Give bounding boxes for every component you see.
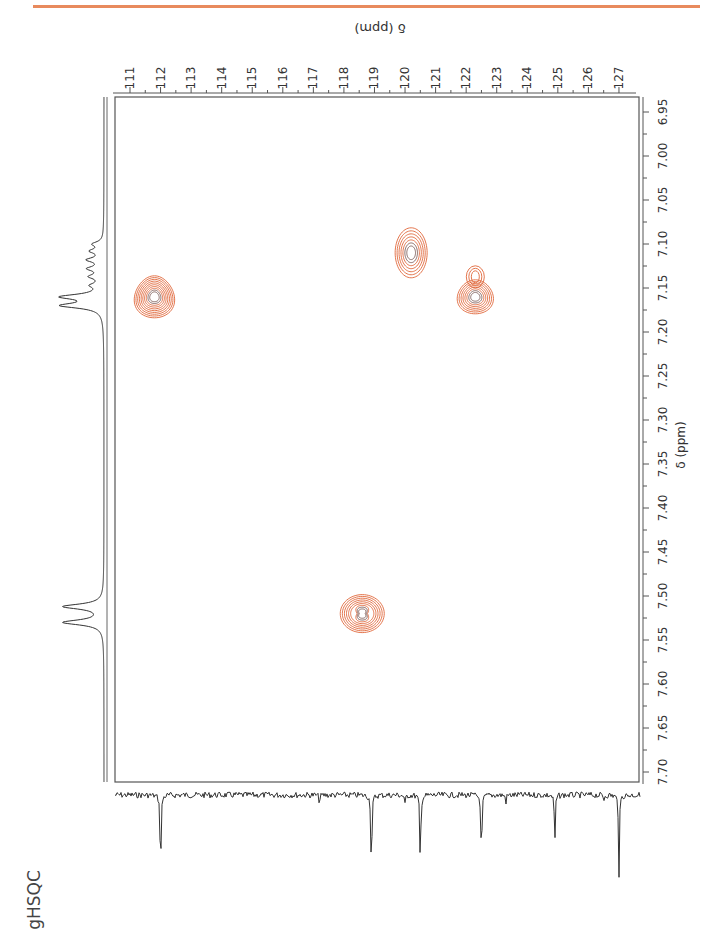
proton-tick-label: 7.15 [656,275,670,302]
proton-tick-label: 7.35 [656,451,670,478]
proton-tick-label: 7.60 [656,671,670,698]
proton-tick-label: 7.00 [656,143,670,170]
contour-line [471,292,480,301]
page: δ (ppm) 11111211311411511611711811912012… [0,0,712,950]
contour-line [459,282,491,312]
carbon-tick-label: 121 [429,67,443,90]
carbon-tick-label: 125 [551,67,565,90]
contour-line [395,228,427,278]
proton-tick-label: 7.30 [656,407,670,434]
contour-line [471,271,479,283]
carbon-tick-label: 111 [123,67,137,90]
carbon-tick-label: 120 [398,67,412,90]
contour-line [407,246,416,260]
contour-line [134,276,174,318]
proton-tick-label: 7.25 [656,363,670,390]
carbon-tick-label: 119 [367,67,381,90]
carbon-tick-label: 123 [490,67,504,90]
proton-1d-spectrum [59,97,104,782]
contour-line [359,609,366,618]
contour-line [467,289,484,305]
experiment-title: gHSQC [24,870,44,930]
contour-line [146,288,162,305]
cross-peak-contours [134,228,493,633]
contour-line [465,287,486,307]
carbon-1d-spectrum [115,792,640,877]
contour-line [145,287,165,308]
contour-line [139,281,169,312]
carbon-tick-label: 114 [215,67,229,90]
carbon-tick-label: 116 [276,67,290,90]
carbon-tick-label: 112 [154,67,168,90]
proton-tick-label: 7.50 [656,583,670,610]
contour-line [401,237,421,269]
proton-tick-label: 7.55 [656,627,670,654]
proton-axis-ticks: 6.957.007.057.107.157.207.257.307.357.40… [643,99,670,786]
proton-axis-title: δ (ppm) [674,421,688,468]
carbon-tick-label: 127 [612,67,626,90]
proton-tick-label: 6.95 [656,99,670,126]
proton-tick-label: 7.70 [656,759,670,786]
contour-line [344,598,380,629]
proton-tick-label: 7.10 [656,231,670,258]
carbon-tick-label: 113 [184,67,198,90]
proton-tick-label: 7.65 [656,715,670,742]
proton-tick-label: 7.20 [656,319,670,346]
carbon-axis-title: δ (ppm) [354,21,405,36]
carbon-axis-ticks: 1111121131141151161171181191201211221231… [123,67,626,93]
carbon-tick-label: 115 [245,67,259,90]
proton-tick-label: 7.45 [656,539,670,566]
carbon-tick-label: 117 [306,67,320,90]
hsqc-plot: δ (ppm) 11111211311411511611711811912012… [0,0,712,950]
contour-line [150,292,159,302]
carbon-tick-label: 118 [337,67,351,90]
carbon-tick-label: 126 [581,67,595,90]
contour-line [346,600,378,627]
proton-tick-label: 7.40 [656,495,670,522]
contour-line [141,283,168,311]
carbon-tick-label: 122 [459,67,473,90]
proton-tick-label: 7.05 [656,187,670,214]
contour-line [403,240,419,266]
carbon-tick-label: 124 [520,67,534,90]
contour-line [351,604,374,624]
plot-frame [115,97,639,782]
